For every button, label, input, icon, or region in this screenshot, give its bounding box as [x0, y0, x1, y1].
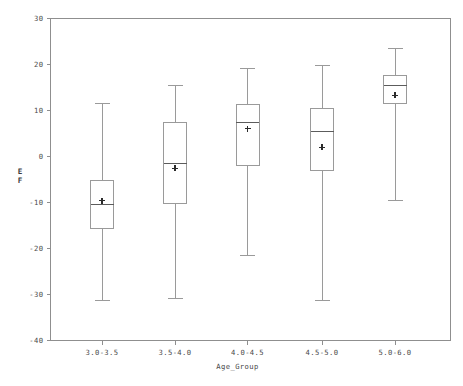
x-tick-label: 5.0-6.0: [378, 348, 411, 357]
x-axis-ticks: 3.0-3.53.5-4.04.0-4.54.5-5.05.0-6.0: [85, 341, 411, 357]
x-tick-label: 3.0-3.5: [85, 348, 118, 357]
y-tick-label: 20: [34, 60, 43, 69]
y-axis-title-char: E: [18, 167, 23, 176]
y-tick-label: -30: [29, 290, 43, 299]
y-axis-ticks: 3020100-10-20-30-40: [29, 14, 50, 345]
interquartile-box: [164, 122, 187, 203]
box-plot-figure: 3020100-10-20-30-40 3.0-3.53.5-4.04.0-4.…: [0, 0, 463, 386]
plot-border: [51, 19, 451, 341]
y-tick-label: -20: [29, 244, 43, 253]
x-axis-title: Age_Group: [216, 362, 259, 371]
box-plot-item: [164, 86, 187, 299]
box-plot-item: [91, 104, 114, 301]
y-tick-label: 10: [34, 106, 43, 115]
y-axis-title: EF: [18, 167, 23, 185]
x-tick-label: 3.5-4.0: [158, 348, 191, 357]
box-series: [91, 48, 407, 300]
x-tick-label: 4.0-4.5: [231, 348, 264, 357]
interquartile-box: [384, 76, 407, 104]
plot-frame: [51, 19, 451, 341]
box-plot-item: [236, 69, 259, 256]
y-tick-label: -40: [29, 336, 43, 345]
y-tick-label: 0: [39, 152, 44, 161]
x-tick-label: 4.5-5.0: [305, 348, 338, 357]
y-tick-label: 30: [34, 14, 43, 23]
interquartile-box: [311, 109, 334, 171]
y-tick-label: -10: [29, 198, 43, 207]
box-plot-item: [384, 48, 407, 200]
plot-canvas: 3020100-10-20-30-40 3.0-3.53.5-4.04.0-4.…: [0, 0, 463, 386]
y-axis-title-char: F: [18, 176, 23, 185]
interquartile-box: [236, 105, 259, 166]
box-plot-item: [311, 65, 334, 300]
x-axis-title-text: Age_Group: [216, 362, 259, 371]
